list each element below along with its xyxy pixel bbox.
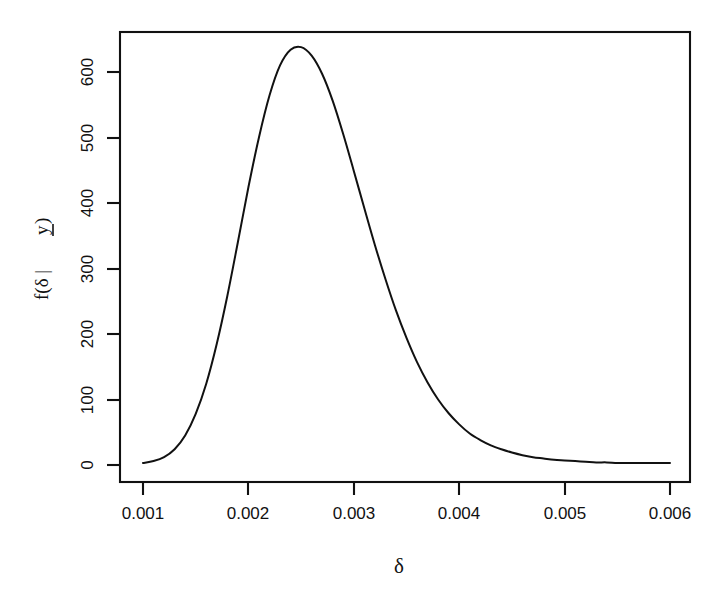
x-tick-label-0.002: 0.002	[227, 504, 270, 523]
x-tick-label-0.004: 0.004	[438, 504, 481, 523]
y-tick-label-100: 100	[78, 386, 97, 414]
x-axis-tick-labels: 0.001 0.002 0.003 0.004 0.005 0.006	[122, 504, 692, 523]
x-tick-label-0.003: 0.003	[333, 504, 376, 523]
y-tick-label-600: 600	[78, 58, 97, 86]
y-axis-ticks	[107, 72, 120, 465]
y-tick-label-400: 400	[78, 189, 97, 217]
y-axis-title: f(δ | y )	[31, 218, 53, 300]
density-curve	[143, 47, 670, 463]
x-axis-title: δ	[394, 554, 404, 578]
x-axis-ticks	[143, 482, 670, 495]
x-tick-label-0.005: 0.005	[544, 504, 587, 523]
y-tick-label-300: 300	[78, 255, 97, 283]
y-axis-title-suffix: )	[31, 218, 53, 224]
density-plot: 0 100 200 300 400 500 600 0.001 0.002 0.…	[0, 0, 728, 595]
y-axis-tick-labels: 0 100 200 300 400 500 600	[78, 58, 97, 470]
y-axis-title-vector: y	[31, 225, 52, 235]
x-tick-label-0.006: 0.006	[649, 504, 692, 523]
plot-frame	[120, 32, 690, 482]
y-axis-title-prefix: f(δ |	[31, 270, 53, 300]
y-tick-label-0: 0	[78, 460, 97, 469]
figure-container: 0 100 200 300 400 500 600 0.001 0.002 0.…	[0, 0, 728, 595]
y-tick-label-200: 200	[78, 320, 97, 348]
y-tick-label-500: 500	[78, 124, 97, 152]
x-tick-label-0.001: 0.001	[122, 504, 165, 523]
